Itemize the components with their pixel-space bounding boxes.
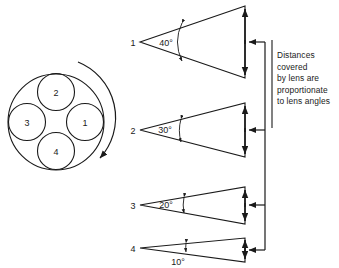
lens-label-2: 2 [53,88,58,98]
diagram-canvas: 2 3 1 4 1 40° 2 30° [0,0,339,268]
angle-arc-3 [183,197,184,213]
note-block: Distances covered by lens are proportion… [277,50,339,108]
cone-triangle-1 [140,6,245,78]
cone-group-2: 2 30° [130,103,245,157]
angle-label-2: 30° [158,125,172,135]
cone-group-1: 1 40° [130,6,245,78]
cone-triangle-4 [140,238,245,262]
note-line-3: by lens are [277,73,339,85]
cone-label-3: 3 [130,201,135,211]
note-line-5: to lens angles [277,96,339,108]
cone-label-2: 2 [130,126,135,136]
connector-bus-group [249,40,272,250]
note-line-2: covered [277,62,339,74]
rotation-arrow-icon [78,62,116,158]
angle-label-3: 20° [159,200,173,210]
angle-arc-2 [179,119,181,142]
cone-label-1: 1 [130,38,135,48]
lens-label-4: 4 [53,147,58,157]
turret-group: 2 3 1 4 [8,62,116,170]
note-line-1: Distances [277,50,339,62]
lens-angle-diagram: 2 3 1 4 1 40° 2 30° [0,0,339,268]
lens-label-3: 3 [24,118,29,128]
lens-label-1: 1 [82,118,87,128]
cone-group-4: 4 10° [130,238,245,267]
angle-label-4: 10° [171,257,185,267]
cone-label-4: 4 [130,244,135,254]
cone-triangle-2 [140,103,245,157]
angle-label-1: 40° [159,38,173,48]
cone-triangle-3 [140,187,245,224]
cone-group-3: 3 20° [130,187,245,224]
note-line-4: proportionate [277,85,339,97]
